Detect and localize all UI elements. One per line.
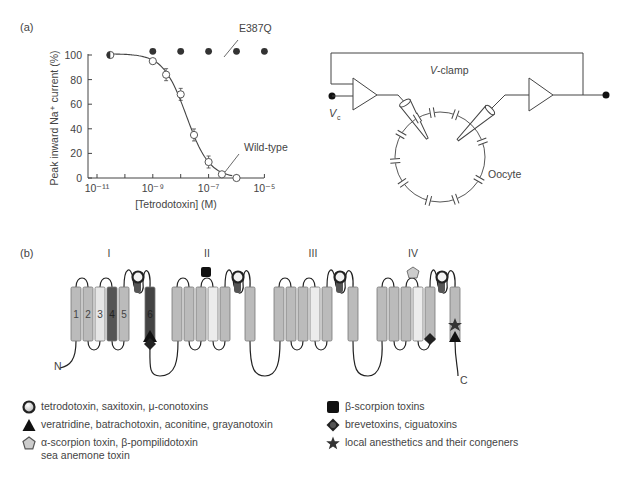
segment-d3-s1 bbox=[274, 287, 284, 341]
sodium-channel-topology: 123456 bbox=[60, 267, 462, 376]
legend-item-local-anesthetics: local anesthetics and their congeners bbox=[326, 436, 518, 450]
y-tick-label: 80 bbox=[70, 74, 82, 86]
panel-a-label: (a) bbox=[20, 21, 33, 33]
x-tick-label: 10⁻¹¹ bbox=[85, 182, 110, 194]
pentagon-site-icon-d4 bbox=[407, 267, 419, 278]
wildtype-leader-line bbox=[225, 154, 239, 172]
segment-d4-s2 bbox=[389, 287, 399, 341]
segment-d4-s1 bbox=[377, 287, 387, 341]
x-axis-label: [Tetrodotoxin] (M) bbox=[135, 198, 217, 210]
x-tick-labels: 10⁻¹¹10⁻⁹10⁻⁷10⁻⁵ bbox=[85, 182, 276, 194]
wildtype-point bbox=[190, 131, 197, 138]
y-tick-label: 40 bbox=[70, 123, 82, 135]
segment-number: 4 bbox=[109, 309, 115, 320]
clamp-amplifier-icon bbox=[353, 78, 377, 110]
voltage-electrode-icon bbox=[454, 104, 496, 144]
legend-text: local anesthetics and their congeners bbox=[345, 436, 518, 449]
segment-d2-s4 bbox=[208, 287, 218, 341]
e387q-point bbox=[233, 48, 240, 55]
segment-number: 3 bbox=[97, 309, 103, 320]
segment-d2-s6 bbox=[245, 287, 255, 341]
voltage-clamp-circuit bbox=[329, 53, 610, 206]
panel-b-label: (b) bbox=[20, 247, 33, 259]
wildtype-point bbox=[218, 171, 225, 178]
c-terminus-label: C bbox=[460, 374, 468, 386]
wildtype-point bbox=[163, 71, 170, 78]
output-terminal bbox=[603, 92, 610, 99]
legend-item-site4: β-scorpion toxins bbox=[326, 400, 425, 414]
segment-d3-s4 bbox=[310, 287, 320, 341]
segment-number: 1 bbox=[73, 309, 79, 320]
wildtype-point bbox=[233, 174, 240, 181]
ring-circle-icon bbox=[22, 400, 36, 414]
pore-toxin-site-icon bbox=[437, 272, 448, 283]
figure: (a) 020406080100 10⁻¹¹10⁻⁹10⁻⁷10⁻⁵ Peak … bbox=[0, 0, 633, 489]
y-tick-label: 100 bbox=[64, 49, 82, 61]
segment-number: 6 bbox=[147, 309, 153, 320]
data-points bbox=[107, 48, 268, 182]
y-axis-label: Peak inward Na⁺ current (%) bbox=[48, 51, 60, 186]
segment-d3-s5 bbox=[322, 287, 332, 341]
x-tick-label: 10⁻⁹ bbox=[142, 182, 164, 194]
y-tick-label: 60 bbox=[70, 98, 82, 110]
segment-d3-s3 bbox=[298, 287, 308, 341]
pentagon-icon bbox=[22, 436, 36, 450]
legend-text: veratridine, batrachotoxin, aconitine, g… bbox=[41, 418, 273, 431]
e387q-point bbox=[261, 48, 268, 55]
wildtype-point bbox=[149, 58, 156, 65]
segment-d4-s4 bbox=[413, 287, 423, 341]
y-tick-label: 0 bbox=[76, 172, 82, 184]
domain-label-ii: II bbox=[204, 247, 210, 259]
domain-label-iv: IV bbox=[408, 247, 418, 259]
segment-d2-s1 bbox=[172, 287, 182, 341]
legend-item-pore-blockers: tetrodotoxin, saxitoxin, μ-conotoxins bbox=[22, 400, 208, 414]
segment-d3-s2 bbox=[286, 287, 296, 341]
segment-d2-s5 bbox=[220, 287, 230, 341]
e387q-point bbox=[177, 48, 184, 55]
domain-label-i: I bbox=[108, 247, 111, 259]
segment-d2-s3 bbox=[196, 287, 206, 341]
x-tick-label: 10⁻⁵ bbox=[253, 182, 275, 194]
voltage-electrode-wire bbox=[490, 95, 529, 110]
square-site-icon-d2 bbox=[201, 267, 211, 277]
legend-item-site2: veratridine, batrachotoxin, aconitine, g… bbox=[22, 418, 273, 432]
legend-text: brevetoxins, ciguatoxins bbox=[345, 418, 457, 431]
legend-text: α-scorpion toxin, β-pompilidotoxinsea an… bbox=[41, 436, 198, 462]
star-icon bbox=[326, 436, 340, 450]
y-tick-labels: 020406080100 bbox=[64, 49, 82, 184]
pore-toxin-site-icon bbox=[233, 272, 244, 283]
wildtype-point bbox=[205, 158, 212, 165]
segment-d4-s3 bbox=[401, 287, 411, 341]
pore-toxin-site-icon bbox=[335, 272, 346, 283]
y-ticks bbox=[88, 55, 92, 178]
n-terminus-label: N bbox=[54, 360, 62, 372]
segment-d2-s2 bbox=[184, 287, 194, 341]
pore-toxin-site-icon bbox=[133, 272, 144, 283]
legend-text: tetrodotoxin, saxitoxin, μ-conotoxins bbox=[41, 400, 208, 413]
vc-subscript: c bbox=[337, 114, 341, 121]
fit-curve bbox=[111, 54, 232, 176]
square-icon bbox=[326, 400, 340, 414]
e387q-point bbox=[205, 48, 212, 55]
e387q-point bbox=[149, 48, 156, 55]
y-tick-label: 20 bbox=[70, 147, 82, 159]
legend-item-site3: α-scorpion toxin, β-pompilidotoxinsea an… bbox=[22, 436, 198, 462]
wildtype-point bbox=[177, 91, 184, 98]
diamond-icon bbox=[326, 418, 340, 432]
triangle-icon bbox=[22, 418, 36, 432]
legend-text: β-scorpion toxins bbox=[345, 400, 425, 413]
e387q-annotation: E387Q bbox=[239, 22, 272, 34]
domain-label-iii: III bbox=[309, 247, 318, 259]
dose-response-chart: 020406080100 10⁻¹¹10⁻⁹10⁻⁷10⁻⁵ Peak inwa… bbox=[48, 22, 288, 210]
wildtype-annotation: Wild-type bbox=[244, 141, 288, 153]
segment-d3-s6 bbox=[348, 287, 358, 341]
vclamp-label: V-clamp bbox=[430, 64, 469, 76]
segment-number: 2 bbox=[85, 309, 91, 320]
legend-item-site5: brevetoxins, ciguatoxins bbox=[326, 418, 457, 432]
voltage-amplifier-icon bbox=[529, 78, 553, 111]
x-tick-label: 10⁻⁷ bbox=[198, 182, 220, 194]
segment-number: 5 bbox=[121, 309, 127, 320]
oocyte-label: Oocyte bbox=[488, 168, 521, 180]
segment-d4-s5 bbox=[425, 287, 435, 341]
